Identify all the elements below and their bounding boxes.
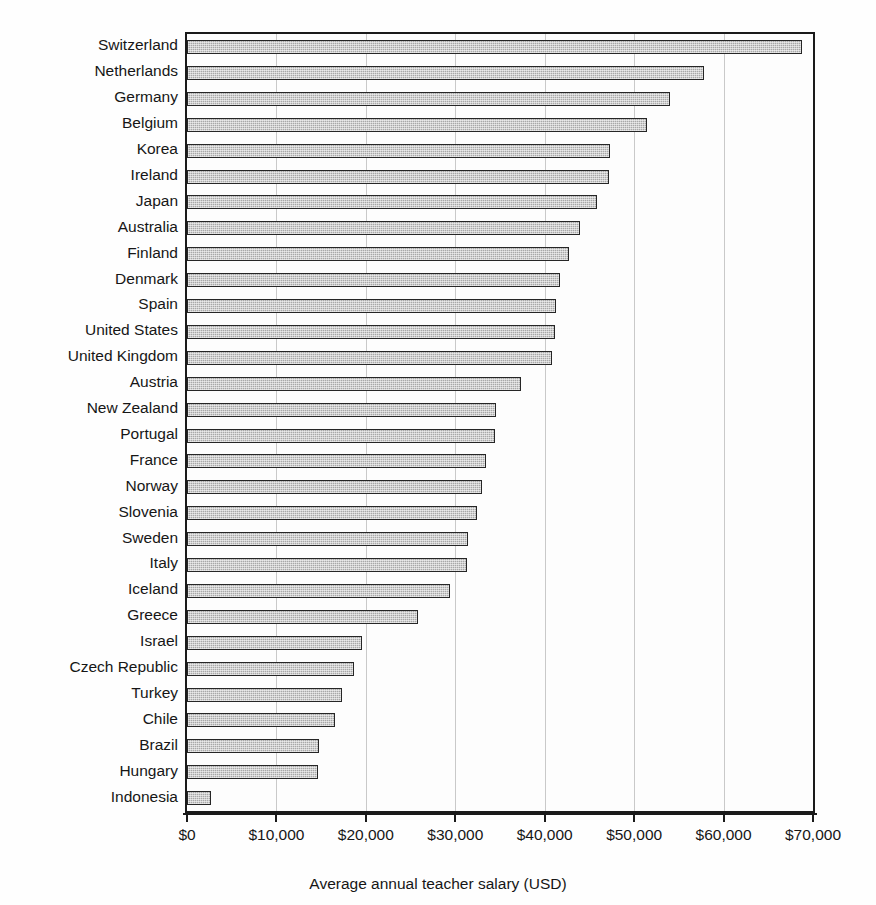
bar-israel [187,636,362,650]
bar-row [187,733,813,759]
y-label-korea: Korea [0,140,178,157]
bar-spain [187,299,556,313]
x-tick-20000 [365,813,367,822]
y-label-france: France [0,451,178,468]
x-tick-50000 [633,813,635,822]
y-label-norway: Norway [0,477,178,494]
bar-denmark [187,273,560,287]
bar-france [187,454,486,468]
bar-row [187,60,813,86]
y-label-denmark: Denmark [0,270,178,287]
bar-row [187,707,813,733]
y-axis-category-labels: SwitzerlandNetherlandsGermanyBelgiumKore… [0,32,178,813]
y-label-netherlands: Netherlands [0,62,178,79]
bar-row [187,319,813,345]
bar-row [187,526,813,552]
bar-sweden [187,532,468,546]
x-tick-10000 [275,813,277,822]
x-tick-label-20000: $20,000 [338,826,394,844]
y-label-ireland: Ireland [0,166,178,183]
bar-row [187,112,813,138]
y-label-slovenia: Slovenia [0,503,178,520]
x-tick-label-0: $0 [178,826,195,844]
bar-row [187,500,813,526]
y-label-portugal: Portugal [0,425,178,442]
bar-slovenia [187,506,477,520]
x-tick-30000 [454,813,456,822]
bar-row [187,785,813,811]
bar-row [187,423,813,449]
chart-figure: SwitzerlandNetherlandsGermanyBelgiumKore… [0,0,876,905]
x-tick-label-50000: $50,000 [606,826,662,844]
y-label-japan: Japan [0,192,178,209]
bar-netherlands [187,66,704,80]
y-label-italy: Italy [0,554,178,571]
bar-australia [187,221,580,235]
bar-row [187,604,813,630]
bar-italy [187,558,467,572]
y-label-australia: Australia [0,218,178,235]
x-tick-60000 [723,813,725,822]
bar-finland [187,247,569,261]
y-label-indonesia: Indonesia [0,788,178,805]
bar-iceland [187,584,450,598]
bar-belgium [187,118,647,132]
y-label-sweden: Sweden [0,529,178,546]
bar-row [187,397,813,423]
bar-japan [187,195,597,209]
bar-row [187,448,813,474]
bar-row [187,656,813,682]
bar-indonesia [187,791,211,805]
x-tick-label-60000: $60,000 [696,826,752,844]
y-label-finland: Finland [0,244,178,261]
bar-austria [187,377,521,391]
bar-row [187,552,813,578]
bar-norway [187,480,482,494]
bar-switzerland [187,40,802,54]
y-label-iceland: Iceland [0,580,178,597]
bar-hungary [187,765,318,779]
bar-row [187,189,813,215]
bar-united-states [187,325,555,339]
bar-brazil [187,739,319,753]
bar-korea [187,144,610,158]
bar-turkey [187,688,342,702]
bar-row [187,759,813,785]
y-label-germany: Germany [0,88,178,105]
bar-row [187,682,813,708]
bar-row [187,138,813,164]
y-label-turkey: Turkey [0,684,178,701]
y-label-switzerland: Switzerland [0,36,178,53]
bar-row [187,630,813,656]
bar-series [187,34,813,811]
y-label-hungary: Hungary [0,762,178,779]
y-label-spain: Spain [0,295,178,312]
bar-germany [187,92,670,106]
bar-row [187,474,813,500]
x-axis: $0$10,000$20,000$30,000$40,000$50,000$60… [185,813,815,814]
y-label-czech-republic: Czech Republic [0,658,178,675]
bar-greece [187,610,418,624]
x-tick-0 [186,813,188,822]
bar-chile [187,713,335,727]
bar-row [187,371,813,397]
bar-united-kingdom [187,351,552,365]
x-tick-70000 [812,813,814,822]
x-tick-label-40000: $40,000 [517,826,573,844]
bar-row [187,164,813,190]
y-label-united-states: United States [0,321,178,338]
bar-row [187,34,813,60]
x-axis-title: Average annual teacher salary (USD) [0,875,876,893]
x-tick-label-30000: $30,000 [427,826,483,844]
y-label-greece: Greece [0,606,178,623]
y-label-brazil: Brazil [0,736,178,753]
bar-row [187,241,813,267]
bar-portugal [187,429,495,443]
bar-row [187,293,813,319]
y-label-belgium: Belgium [0,114,178,131]
plot-area [185,32,815,813]
bar-row [187,345,813,371]
y-label-chile: Chile [0,710,178,727]
bar-row [187,215,813,241]
y-label-israel: Israel [0,632,178,649]
